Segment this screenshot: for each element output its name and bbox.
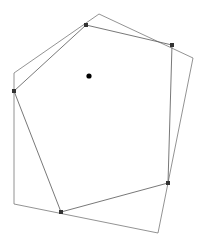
figure-root xyxy=(0,0,204,244)
polygon-vertex-marker xyxy=(166,181,169,184)
centroid-dot xyxy=(86,73,91,78)
centroid-point-group xyxy=(86,73,91,78)
polygon-vertex-marker xyxy=(12,89,15,92)
polygon-vertex-marker xyxy=(59,210,62,213)
polygon-diagram-canvas xyxy=(0,0,204,244)
polygon-vertex-marker xyxy=(84,23,87,26)
polygon-vertex-marker xyxy=(170,43,173,46)
